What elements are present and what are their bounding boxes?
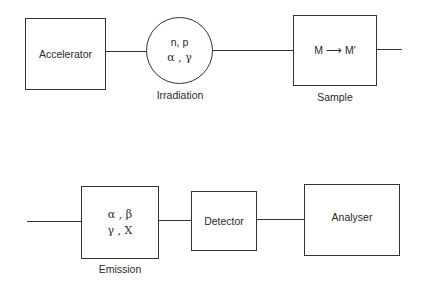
irradiation-particles-1: n, p bbox=[171, 35, 189, 50]
detector-label: Detector bbox=[204, 214, 244, 229]
irradiation-particles-2: α , γ bbox=[167, 50, 192, 66]
emission-box: α , β γ , X bbox=[81, 186, 159, 259]
analyser-box: Analyser bbox=[304, 184, 400, 256]
sample-caption: Sample bbox=[317, 91, 353, 103]
emission-particles-1: α , β bbox=[108, 207, 132, 223]
connector-sample-out bbox=[376, 49, 402, 50]
detector-box: Detector bbox=[191, 191, 257, 251]
sample-box: M ⟶ M′ bbox=[293, 15, 377, 86]
irradiation-circle: n, p α , γ bbox=[146, 17, 213, 84]
connector-emission-detector bbox=[157, 220, 192, 221]
sample-transformation: M ⟶ M′ bbox=[314, 43, 355, 58]
emission-caption: Emission bbox=[99, 263, 142, 275]
irradiation-caption: Irradiation bbox=[157, 89, 204, 101]
connector-irradiation-sample bbox=[211, 50, 294, 51]
analyser-label: Analyser bbox=[332, 210, 373, 225]
emission-particles-2: γ , X bbox=[108, 223, 133, 239]
connector-accelerator-irradiation bbox=[105, 51, 147, 52]
connector-detector-analyser bbox=[256, 219, 305, 220]
connector-in-emission bbox=[27, 221, 82, 222]
accelerator-label: Accelerator bbox=[39, 47, 92, 62]
accelerator-box: Accelerator bbox=[25, 18, 106, 90]
